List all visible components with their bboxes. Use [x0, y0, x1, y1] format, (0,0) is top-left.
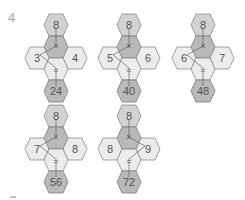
left-number: 5: [107, 52, 113, 64]
bottom-number: 24: [50, 85, 62, 97]
right-number: 9: [145, 143, 151, 155]
hex-puzzle-2: 8 × 5 6 = 40: [98, 10, 160, 100]
hex-puzzle-1: 8 × 3 4 = 24: [25, 10, 87, 100]
question-number: 4: [8, 10, 15, 25]
left-number: 8: [107, 143, 113, 155]
bottom-number: 40: [123, 85, 135, 97]
hex-puzzle-5: 8 × 8 9 = 72: [98, 101, 160, 191]
bottom-number: 72: [123, 176, 135, 188]
bottom-number: 48: [197, 85, 209, 97]
left-number: 7: [34, 143, 40, 155]
right-number: 8: [72, 143, 78, 155]
next-question-marker: [10, 196, 16, 198]
left-number: 3: [34, 52, 40, 64]
bottom-number: 56: [50, 176, 62, 188]
hex-puzzle-4: 8 × 7 8 = 56: [25, 101, 87, 191]
right-number: 7: [219, 52, 225, 64]
right-number: 6: [145, 52, 151, 64]
left-number: 6: [181, 52, 187, 64]
hex-puzzle-3: 8 × 6 7 = 48: [172, 10, 234, 100]
right-number: 4: [72, 52, 78, 64]
